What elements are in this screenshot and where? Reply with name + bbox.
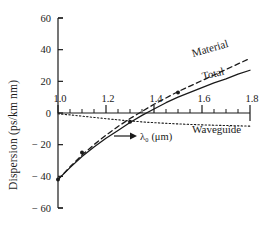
y-tick-label: − 40: [32, 171, 51, 182]
chart-canvas: Dispersion (ps/km nm) 6040200− 20− 40− 6…: [0, 0, 264, 225]
x-tick-label: 1.8: [245, 93, 258, 104]
y-tick-label: − 60: [32, 203, 51, 214]
y-tick-label: − 20: [32, 139, 51, 150]
curve-label-waveguide: Waveguide: [192, 123, 241, 135]
x-tick-label: 1.4: [149, 93, 163, 104]
y-axis-label: Dispersion (ps/km nm): [7, 80, 20, 190]
curve-label-material: Material: [190, 37, 229, 59]
curve-label-total: Total: [201, 65, 226, 82]
dispersion-chart-figure: Dispersion (ps/km nm) 6040200− 20− 40− 6…: [0, 0, 264, 225]
data-point-marker: [56, 178, 60, 182]
data-point-marker: [176, 90, 180, 94]
data-point-marker: [128, 120, 132, 124]
y-tick-label: 20: [41, 76, 52, 87]
lambda-zero-label: λ₀ (μm): [140, 131, 173, 143]
data-point-marker: [80, 151, 84, 155]
lambda-zero-arrow-head: [130, 133, 137, 140]
x-tick-label: 1.0: [53, 93, 66, 104]
x-axis-tick-labels: 1.01.21.41.61.8: [53, 93, 258, 104]
y-tick-label: 0: [46, 108, 51, 119]
y-tick-label: 60: [41, 13, 52, 24]
y-tick-label: 40: [41, 44, 52, 55]
lambda-zero-annotation: λ₀ (μm): [114, 131, 173, 143]
x-tick-label: 1.2: [101, 93, 114, 104]
y-axis-tick-labels: 6040200− 20− 40− 60: [32, 13, 51, 214]
x-tick-label: 1.6: [197, 93, 210, 104]
